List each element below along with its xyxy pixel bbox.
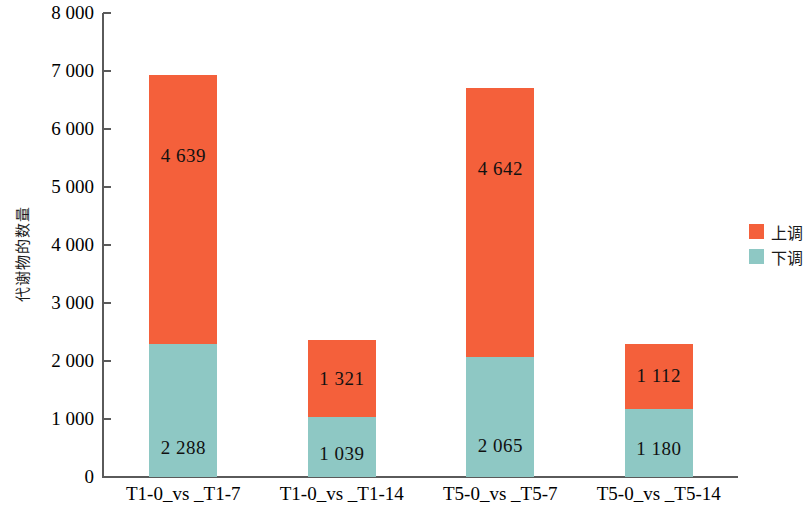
bar-segment-up[interactable]: 1 321 (308, 340, 376, 417)
stacked-bar-chart: 代谢物的数量 8 0007 0006 0005 0004 0003 0002 0… (0, 0, 810, 515)
legend-swatch-icon (749, 249, 764, 264)
legend-item[interactable]: 下调 (749, 244, 803, 269)
bar-stack[interactable]: 1 1801 112 (625, 344, 693, 477)
plot-area: 2 2884 6391 0391 3212 0654 6421 1801 112 (104, 13, 738, 477)
x-axis-tick-label: T5-0_vs _T5-14 (580, 484, 739, 505)
bar-value-label-down: 2 288 (161, 438, 206, 457)
bar-segment-up[interactable]: 4 642 (466, 88, 534, 357)
x-axis-tick-label: T1-0_vs _T1-7 (104, 484, 263, 505)
x-axis-tick-label: T1-0_vs _T1-14 (263, 484, 422, 505)
legend: 上调下调 (749, 219, 803, 269)
y-axis-tick-label: 5 000 (8, 177, 94, 196)
bar-segment-down[interactable]: 1 039 (308, 417, 376, 477)
y-axis-tick-label: 0 (8, 467, 94, 486)
y-axis-tick-label: 4 000 (8, 235, 94, 254)
bar-segment-up[interactable]: 4 639 (149, 75, 217, 344)
legend-item[interactable]: 上调 (749, 219, 803, 244)
legend-label: 下调 (771, 245, 803, 269)
bar-segment-down[interactable]: 1 180 (625, 409, 693, 477)
legend-swatch-icon (749, 224, 764, 239)
bar-stack[interactable]: 2 0654 642 (466, 88, 534, 477)
bar-value-label-up: 4 639 (161, 146, 206, 165)
legend-label: 上调 (771, 220, 803, 244)
y-axis-tick-label: 7 000 (8, 61, 94, 80)
bar-value-label-up: 1 321 (319, 369, 364, 388)
bar-segment-down[interactable]: 2 065 (466, 357, 534, 477)
y-axis-tick-label: 6 000 (8, 119, 94, 138)
y-axis-tick-label: 3 000 (8, 293, 94, 312)
bar-segment-up[interactable]: 1 112 (625, 344, 693, 408)
bar-stack[interactable]: 1 0391 321 (308, 340, 376, 477)
bar-value-label-up: 1 112 (636, 366, 681, 385)
y-axis-tick-label: 2 000 (8, 351, 94, 370)
bar-value-label-down: 1 039 (319, 444, 364, 463)
x-axis-tick-label: T5-0_vs _T5-7 (421, 484, 580, 505)
y-axis-tick-label: 8 000 (8, 3, 94, 22)
y-axis-tick-label: 1 000 (8, 409, 94, 428)
bar-segment-down[interactable]: 2 288 (149, 344, 217, 477)
bar-value-label-up: 4 642 (478, 159, 523, 178)
bar-value-label-down: 2 065 (478, 436, 523, 455)
bar-stack[interactable]: 2 2884 639 (149, 75, 217, 477)
bar-value-label-down: 1 180 (636, 439, 681, 458)
